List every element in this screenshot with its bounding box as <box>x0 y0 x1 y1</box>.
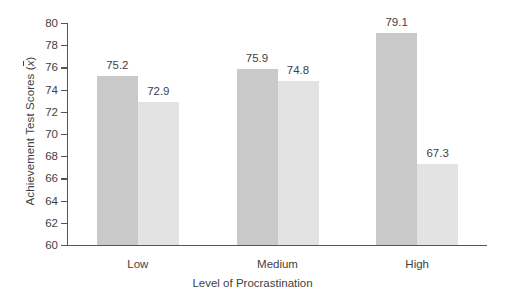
bar-low-series-b <box>138 102 179 245</box>
bar-value-label: 72.9 <box>147 85 169 97</box>
bar-value-label: 67.3 <box>426 147 448 159</box>
x-axis-line <box>67 245 487 246</box>
y-axis-tick-label: 68 <box>32 150 58 162</box>
category-label-medium: Medium <box>257 258 298 270</box>
plot-area: 75.272.975.974.879.167.3 <box>68 23 487 245</box>
y-axis-tick-label: 76 <box>32 61 58 73</box>
category-label-low: Low <box>127 258 148 270</box>
y-axis-tick-label: 64 <box>32 195 58 207</box>
bar-low-series-a <box>97 76 138 245</box>
y-axis-tick-label: 66 <box>32 172 58 184</box>
category-label-high: High <box>405 258 429 270</box>
y-axis-tick-label: 60 <box>32 239 58 251</box>
y-axis-tick-label: 62 <box>32 217 58 229</box>
bar-value-label: 75.9 <box>246 52 268 64</box>
bar-value-label: 75.2 <box>106 59 128 71</box>
y-axis-tick-label: 80 <box>32 17 58 29</box>
bar-high-series-a <box>376 33 417 245</box>
bar-medium-series-a <box>237 69 278 245</box>
y-axis-tick-label: 70 <box>32 128 58 140</box>
bar-chart: Achievement Test Scores (x) 807876747270… <box>0 0 505 305</box>
y-axis-tick-label: 78 <box>32 39 58 51</box>
y-axis-tick-label: 74 <box>32 84 58 96</box>
x-axis-title: Level of Procrastination <box>0 277 505 289</box>
y-axis-tick-label: 72 <box>32 106 58 118</box>
bar-value-label: 74.8 <box>287 64 309 76</box>
bar-value-label: 79.1 <box>385 16 407 28</box>
bar-high-series-b <box>417 164 458 245</box>
bar-medium-series-b <box>278 81 319 245</box>
